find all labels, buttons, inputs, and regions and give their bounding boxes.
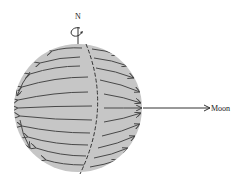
north-label: N — [75, 12, 81, 21]
tidal-flow-diagram: N Moon — [0, 0, 249, 191]
moon-label: Moon — [211, 104, 230, 113]
